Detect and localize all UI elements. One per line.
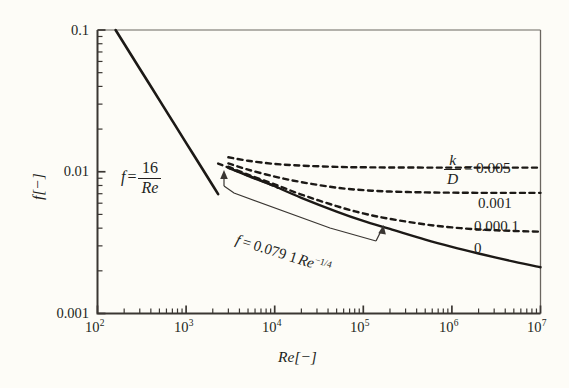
- laminar-eq-denominator: Re: [138, 179, 161, 197]
- blasius-pointer-annotation: [220, 170, 386, 241]
- curve-label-0.0001: 0.000 1: [474, 219, 519, 234]
- roughness-key-denominator: D: [444, 170, 461, 187]
- x-tick-label-4: 106: [439, 320, 459, 335]
- y-tick-label-2: 0.001: [27, 306, 89, 321]
- y-axis-ticks: [98, 30, 106, 314]
- laminar-equation-annotation: f=16Re: [121, 160, 161, 197]
- friction-factor-chart: 0.1 0.01 0.001 f[−] 102 103 104 105 106 …: [0, 0, 569, 388]
- laminar-eq-numerator: 16: [138, 160, 161, 179]
- roughness-key-fraction: kD: [444, 152, 461, 188]
- curve-label-0: 0: [474, 241, 482, 256]
- x-tick-label-0: 102: [85, 320, 105, 335]
- roughness-key-value: 0.005: [476, 159, 511, 176]
- x-tick-label-3: 105: [350, 320, 370, 335]
- x-axis-ticks: [98, 306, 541, 314]
- x-axis-title-text: Re[−]: [278, 348, 317, 365]
- x-tick-label-5: 107: [527, 320, 547, 335]
- laminar-eq-equals: =: [127, 168, 136, 185]
- x-tick-label-2: 104: [262, 320, 282, 335]
- y-axis-title-text: f[−]: [29, 173, 46, 200]
- roughness-key-numerator: k: [444, 152, 461, 170]
- laminar-eq-fraction: 16Re: [138, 160, 161, 197]
- y-axis-title: f[−]: [30, 173, 46, 200]
- curve-label-0.001: 0.001: [478, 196, 512, 211]
- y-tick-label-0: 0.1: [47, 23, 89, 38]
- laminar-eq-f: f: [121, 168, 125, 185]
- roughness-key-equals: =: [464, 159, 473, 176]
- roughness-key-label: kD=0.005: [444, 152, 511, 188]
- x-axis-title: Re[−]: [278, 349, 317, 365]
- x-tick-label-1: 103: [174, 320, 194, 335]
